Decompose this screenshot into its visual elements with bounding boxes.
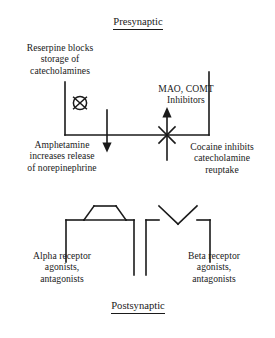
heading-presynaptic: Presynaptic	[72, 16, 204, 29]
label-alpha-receptor: Alpha receptor agonists, antagonists	[10, 250, 114, 284]
label-amphetamine: Amphetamine increases release of norepin…	[4, 139, 120, 173]
synapse-diagram: Presynaptic Postsynaptic Reserpine block…	[0, 0, 275, 338]
heading-presynaptic-text: Presynaptic	[113, 16, 162, 30]
heading-postsynaptic-text: Postsynaptic	[111, 300, 165, 314]
label-beta-receptor: Beta receptor agonists, antagonists	[162, 250, 266, 284]
heading-postsynaptic: Postsynaptic	[72, 300, 204, 313]
up-arrow-icon	[162, 107, 171, 160]
label-reserpine: Reserpine blocks storage of catecholamin…	[8, 42, 112, 76]
label-mao-comt-inhibitors: MAO, COMT Inhibitors	[138, 83, 234, 106]
trapezoid-notch-icon	[84, 206, 126, 220]
crossed-circle-icon	[73, 96, 86, 109]
label-cocaine: Cocaine inhibits catecholamine reuptake	[172, 141, 272, 175]
v-notch-icon	[159, 206, 197, 224]
